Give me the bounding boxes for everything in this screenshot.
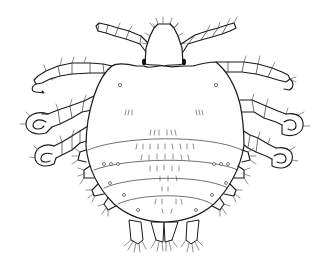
- posterior-lobes: [124, 220, 203, 252]
- right-eye: [182, 59, 186, 65]
- left-third-leg: [20, 95, 94, 134]
- left-fourth-leg: [30, 126, 90, 166]
- right-third-leg: [240, 94, 310, 136]
- left-eye: [142, 59, 146, 65]
- head: [142, 17, 186, 66]
- arthropod-illustration: [0, 0, 328, 272]
- illustration-canvas: arthropod line illustration (dorsal view…: [0, 0, 328, 272]
